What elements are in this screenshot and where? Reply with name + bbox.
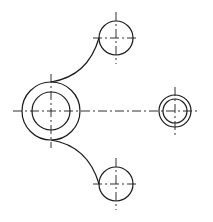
- technical-drawing: [0, 0, 213, 222]
- upper-connecting-arc: [51, 38, 99, 82]
- lower-connecting-arc: [51, 140, 99, 184]
- top-hole: [93, 12, 139, 64]
- bottom-hole: [93, 158, 139, 210]
